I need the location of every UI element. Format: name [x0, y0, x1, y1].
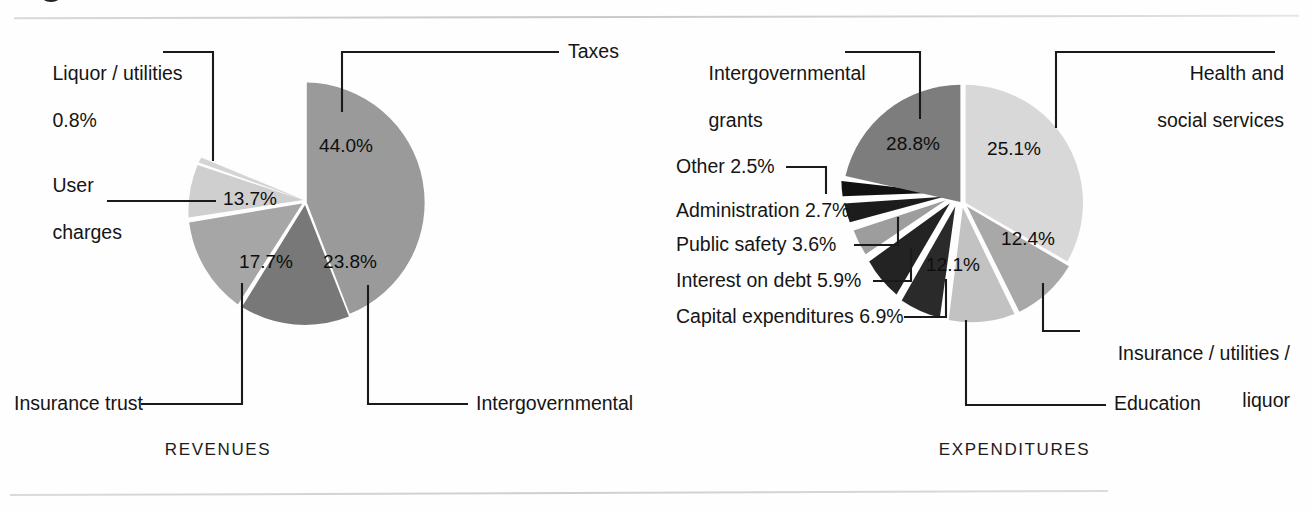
label-liquor-utilities-line1: Liquor / utilities [53, 62, 183, 84]
revenues-panel: 44.0% 23.8% 17.7% 13.7% Liquor / utiliti… [0, 0, 656, 511]
label-liquor-utilities: Liquor / utilities 0.8% [20, 38, 183, 157]
label-user-charges-line2: charges [53, 221, 122, 243]
expenditures-slices [841, 85, 1083, 322]
label-insurance-utilities-liquor: Insurance / utilities / liquor [1084, 318, 1290, 437]
label-administration: Administration 2.7% [676, 199, 849, 223]
label-grants-line2: grants [709, 109, 763, 131]
label-public-safety: Public safety 3.6% [676, 233, 836, 257]
label-health-line1: Health and [1190, 62, 1284, 84]
label-user-charges: User charges [20, 150, 122, 269]
expenditures-pct-grants: 28.8% [886, 133, 940, 154]
label-grants-line1: Intergovernmental [709, 62, 866, 84]
label-insurance-line2: liquor [1242, 389, 1290, 411]
label-capital-expenditures: Capital expenditures 6.9% [676, 305, 904, 329]
leader-other [786, 167, 826, 194]
expenditures-pct-education: 12.1% [926, 254, 980, 275]
revenues-caption: REVENUES [0, 440, 546, 460]
leader-insurance-trust [141, 283, 242, 404]
label-user-charges-line1: User [53, 174, 94, 196]
expenditures-pct-health-social: 25.1% [987, 138, 1041, 159]
leader-taxes [342, 52, 559, 112]
label-health-line2: social services [1157, 109, 1284, 131]
label-intergovernmental: Intergovernmental [476, 392, 633, 416]
expenditures-caption: EXPENDITURES [686, 440, 1313, 460]
revenues-pct-intergovernmental: 23.8% [323, 251, 377, 272]
label-insurance-line1: Insurance / utilities / [1118, 342, 1290, 364]
revenues-pct-taxes: 44.0% [319, 135, 373, 156]
leader-intergovernmental [368, 285, 468, 404]
label-health-social-services: Health and social services [1088, 38, 1284, 157]
revenues-pct-user-charges: 13.7% [223, 188, 277, 209]
label-insurance-trust: Insurance trust [14, 392, 143, 416]
label-interest-on-debt: Interest on debt 5.9% [676, 269, 861, 293]
label-education: Education [1114, 392, 1201, 416]
label-intergovernmental-grants: Intergovernmental grants [676, 38, 866, 157]
label-liquor-utilities-line2: 0.8% [53, 109, 97, 131]
expenditures-pct-insurance: 12.4% [1001, 228, 1055, 249]
figure-page: 44.0% 23.8% 17.7% 13.7% Liquor / utiliti… [0, 0, 1313, 511]
label-taxes: Taxes [568, 40, 619, 64]
expenditures-panel: 28.8% 25.1% 12.4% 12.1% Intergovernmenta… [656, 0, 1313, 511]
label-other: Other 2.5% [676, 155, 775, 179]
revenues-pct-insurance-trust: 17.7% [239, 251, 293, 272]
